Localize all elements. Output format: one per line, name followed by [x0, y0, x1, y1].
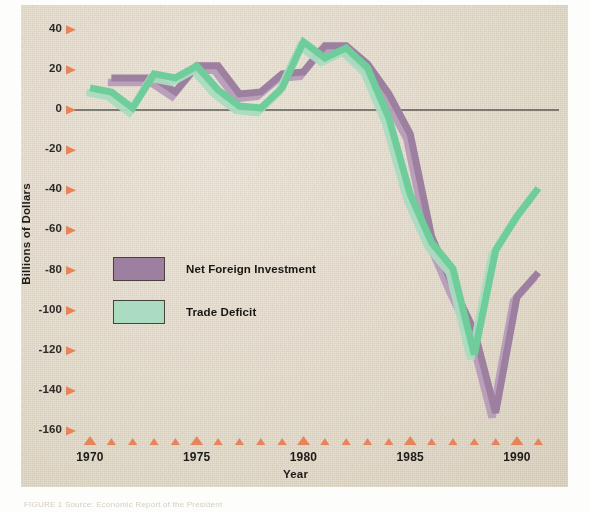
y-axis-tick-label: 0 [0, 102, 62, 114]
y-axis-tick-label: -120 [0, 343, 62, 355]
y-axis-tick-label: 20 [0, 62, 62, 74]
y-axis-title: Billions of Dollars [20, 174, 32, 294]
legend-label-net-foreign-investment: Net Foreign Investment [186, 263, 316, 275]
y-axis-tick-label: -100 [0, 303, 62, 315]
legend-swatch-net-foreign-investment [113, 257, 165, 281]
x-axis-tick-label: 1980 [283, 450, 325, 464]
legend-item-net-foreign-investment: Net Foreign Investment [113, 257, 316, 281]
legend-item-trade-deficit: Trade Deficit [113, 300, 256, 324]
x-axis-tick-label: 1975 [176, 450, 218, 464]
chart-plot-area [0, 0, 589, 512]
y-axis-tick-label: -160 [0, 423, 62, 435]
y-axis-tick-label: -20 [0, 142, 62, 154]
legend-label-trade-deficit: Trade Deficit [186, 306, 256, 318]
x-axis-tick-label: 1985 [389, 450, 431, 464]
x-tick-markers [84, 436, 543, 445]
y-tick-markers [66, 25, 76, 435]
y-axis-tick-label: -140 [0, 383, 62, 395]
legend-swatch-trade-deficit [113, 300, 165, 324]
x-axis-title: Year [283, 468, 308, 480]
figure-caption: FIGURE 1 Source: Economic Report of the … [24, 500, 222, 509]
y-axis-tick-label: 40 [0, 22, 62, 34]
x-axis-tick-label: 1970 [69, 450, 111, 464]
x-axis-tick-label: 1990 [496, 450, 538, 464]
series-line-net-foreign-investment [108, 46, 538, 418]
figure-container: 40200-20-40-60-80-100-120-140-160 197019… [0, 0, 589, 512]
